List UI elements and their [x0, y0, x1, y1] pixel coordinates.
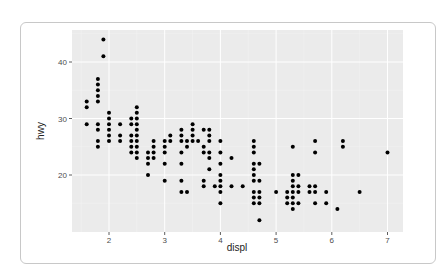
- data-point: [107, 133, 111, 137]
- data-point: [179, 133, 183, 137]
- data-point: [118, 122, 122, 126]
- x-axis-title: displ: [227, 242, 248, 253]
- data-point: [179, 150, 183, 154]
- data-point: [218, 162, 222, 166]
- data-point: [291, 190, 295, 194]
- data-point: [291, 179, 295, 183]
- data-point: [335, 207, 339, 211]
- data-point: [152, 145, 156, 149]
- data-point: [291, 184, 295, 188]
- data-point: [179, 139, 183, 143]
- data-point: [202, 145, 206, 149]
- data-point: [179, 128, 183, 132]
- data-point: [252, 173, 256, 177]
- data-point: [179, 190, 183, 194]
- data-point: [291, 145, 295, 149]
- data-point: [135, 105, 139, 109]
- data-point: [257, 162, 261, 166]
- data-point: [218, 139, 222, 143]
- data-point: [185, 190, 189, 194]
- data-point: [308, 184, 312, 188]
- data-point: [85, 105, 89, 109]
- data-point: [129, 150, 133, 154]
- data-point: [386, 150, 390, 154]
- plot-panel: [72, 30, 403, 232]
- data-point: [257, 201, 261, 205]
- data-point: [85, 122, 89, 126]
- data-point: [96, 83, 100, 87]
- data-point: [129, 122, 133, 126]
- data-point: [135, 128, 139, 132]
- data-point: [218, 179, 222, 183]
- x-axis: 234567: [107, 232, 391, 245]
- data-point: [296, 201, 300, 205]
- data-point: [257, 196, 261, 200]
- data-point: [163, 145, 167, 149]
- data-point: [152, 150, 156, 154]
- data-point: [107, 111, 111, 115]
- data-point: [85, 100, 89, 104]
- data-point: [135, 111, 139, 115]
- data-point: [163, 179, 167, 183]
- data-point: [191, 139, 195, 143]
- data-point: [135, 139, 139, 143]
- data-point: [185, 139, 189, 143]
- data-point: [135, 117, 139, 121]
- data-point: [135, 122, 139, 126]
- data-point: [285, 196, 289, 200]
- data-point: [163, 162, 167, 166]
- data-point: [196, 139, 200, 143]
- data-point: [218, 190, 222, 194]
- data-point: [191, 122, 195, 126]
- data-point: [135, 150, 139, 154]
- scatter-chart: 234567 203040 displ hwy: [0, 0, 448, 276]
- data-point: [230, 184, 234, 188]
- data-point: [341, 145, 345, 149]
- data-point: [101, 54, 105, 58]
- data-point: [296, 173, 300, 177]
- data-point: [207, 139, 211, 143]
- data-point: [118, 133, 122, 137]
- data-point: [96, 128, 100, 132]
- data-point: [241, 184, 245, 188]
- data-point: [291, 173, 295, 177]
- data-point: [252, 179, 256, 183]
- data-point: [218, 184, 222, 188]
- data-point: [168, 133, 172, 137]
- data-point: [96, 94, 100, 98]
- data-point: [96, 139, 100, 143]
- x-tick-label: 3: [162, 236, 167, 245]
- data-point: [163, 139, 167, 143]
- data-point: [152, 139, 156, 143]
- data-point: [129, 139, 133, 143]
- data-point: [218, 173, 222, 177]
- data-point: [313, 139, 317, 143]
- data-point: [96, 88, 100, 92]
- data-point: [202, 184, 206, 188]
- data-point: [202, 150, 206, 154]
- data-point: [135, 133, 139, 137]
- data-point: [129, 133, 133, 137]
- data-point: [107, 117, 111, 121]
- data-point: [107, 128, 111, 132]
- data-point: [296, 190, 300, 194]
- data-point: [96, 77, 100, 81]
- data-point: [285, 201, 289, 205]
- data-point: [146, 156, 150, 160]
- data-point: [207, 150, 211, 154]
- data-point: [252, 201, 256, 205]
- data-point: [207, 128, 211, 132]
- x-tick-label: 4: [218, 236, 223, 245]
- data-point: [218, 201, 222, 205]
- x-tick-label: 6: [330, 236, 335, 245]
- data-point: [207, 156, 211, 160]
- data-point: [252, 145, 256, 149]
- data-point: [107, 122, 111, 126]
- data-point: [207, 167, 211, 171]
- data-point: [296, 184, 300, 188]
- data-point: [257, 190, 261, 194]
- data-point: [257, 179, 261, 183]
- y-tick-label: 40: [58, 58, 67, 67]
- data-point: [146, 173, 150, 177]
- data-point: [185, 145, 189, 149]
